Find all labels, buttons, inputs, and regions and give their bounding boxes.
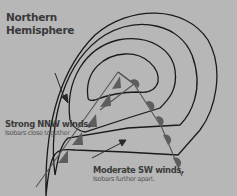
strong-winds-caption: Isobars close together xyxy=(5,129,91,137)
weather-diagram: Northern Hemisphere Strong NNW winds, Is… xyxy=(0,0,237,196)
moderate-winds-label: Moderate SW winds, Isobars further apart… xyxy=(93,165,184,183)
warm-front-line xyxy=(134,84,182,176)
title-line-1: Northern xyxy=(6,11,74,24)
strong-winds-label: Strong NNW winds, Isobars close together xyxy=(5,119,91,137)
moderate-winds-caption: Isobars further apart. xyxy=(93,175,184,183)
title-line-2: Hemisphere xyxy=(6,24,74,37)
diagram-title: Northern Hemisphere xyxy=(6,11,74,37)
warm-front-semicircle xyxy=(163,134,171,145)
strong-winds-heading: Strong NNW winds, xyxy=(5,119,91,129)
isobar-inner xyxy=(88,54,159,100)
arrowhead-icon xyxy=(119,140,126,146)
moderate-sw-wind-arrow xyxy=(92,142,123,158)
moderate-winds-heading: Moderate SW winds, xyxy=(93,165,184,175)
